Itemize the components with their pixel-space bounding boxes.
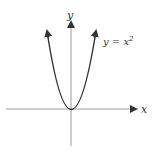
equation-label: y = x2 (102, 35, 134, 47)
x-axis-label: x (141, 103, 148, 116)
parabola-diagram: y x y = x2 (0, 0, 152, 155)
right-arrow-icon (95, 31, 97, 38)
y-axis-label: y (66, 9, 74, 22)
